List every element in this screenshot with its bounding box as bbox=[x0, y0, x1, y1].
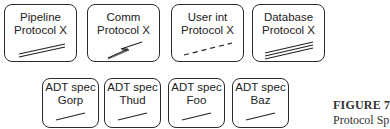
single-line-icon bbox=[105, 79, 162, 129]
double-line-icon bbox=[5, 5, 78, 63]
protocol-box-database: Database Protocol X bbox=[252, 4, 325, 62]
figure-caption-title: FIGURE 7 bbox=[333, 98, 390, 113]
adt-spec-box-thud: ADT spec Thud bbox=[104, 78, 161, 128]
protocol-box-user-int: User int Protocol X bbox=[171, 4, 244, 62]
figure-caption-subtitle: Protocol Sp bbox=[333, 113, 389, 128]
single-line-icon bbox=[169, 79, 226, 129]
adt-spec-box-baz: ADT spec Baz bbox=[232, 78, 289, 128]
single-line-icon bbox=[43, 79, 100, 129]
adt-spec-box-foo: ADT spec Foo bbox=[168, 78, 225, 128]
dashed-line-icon bbox=[172, 5, 245, 63]
triple-line-icon bbox=[253, 5, 326, 63]
single-line-icon bbox=[233, 79, 290, 129]
adt-spec-box-gorp: ADT spec Gorp bbox=[42, 78, 99, 128]
protocol-box-comm: Comm Protocol X bbox=[87, 4, 160, 62]
lightning-bolt-icon bbox=[88, 5, 161, 63]
protocol-box-pipeline: Pipeline Protocol X bbox=[4, 4, 77, 62]
